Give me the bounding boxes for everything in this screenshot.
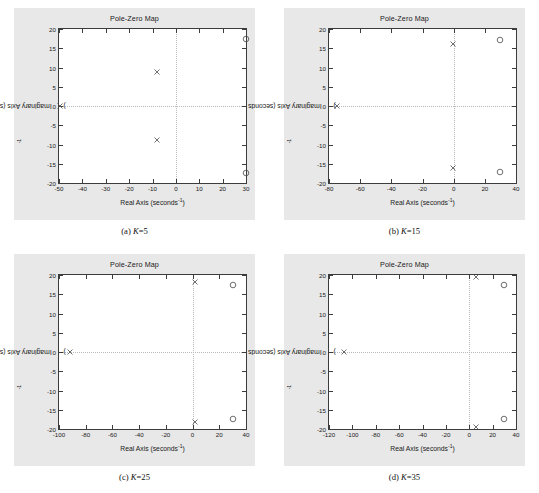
- y-axis-tick-right: [512, 410, 516, 411]
- zero-marker: [242, 169, 250, 177]
- x-axis-tick-label: 40: [513, 185, 520, 192]
- x-axis-tick-top: [246, 275, 247, 279]
- y-axis-tick: [59, 164, 63, 165]
- pole-marker: [192, 279, 199, 286]
- x-axis-tick-top: [399, 275, 400, 279]
- x-axis-tick-top: [360, 29, 361, 33]
- y-axis-tick-right: [512, 352, 516, 353]
- y-axis-tick: [59, 183, 63, 184]
- x-axis-tick-top: [176, 29, 177, 33]
- y-axis-tick: [329, 164, 333, 165]
- caption-prefix: (c): [119, 472, 131, 482]
- subfigure-caption: (c) K=25: [0, 472, 269, 482]
- y-axis-tick-right: [242, 352, 246, 353]
- y-axis-title-tail: ): [0, 103, 66, 110]
- zero-marker: [500, 415, 508, 423]
- y-axis-tick: [59, 145, 63, 146]
- x-axis-tick-label: 20: [216, 431, 223, 438]
- zero-marker: [242, 35, 250, 43]
- y-axis-tick-right: [512, 125, 516, 126]
- subfigure-caption: (b) K=15: [270, 226, 539, 236]
- y-axis-tick-right: [242, 410, 246, 411]
- x-axis-tick-top: [106, 29, 107, 33]
- x-axis-tick-label: -10: [148, 185, 157, 192]
- y-axis-tick: [59, 294, 63, 295]
- plot-axes: -100-80-60-40-200204020151050-5-10-15-20: [58, 274, 247, 430]
- plot-axes: -120-100-80-60-40-200204020151050-5-10-1…: [328, 274, 517, 430]
- x-axis-tick: [112, 425, 113, 429]
- y-axis-tick-right: [242, 333, 246, 334]
- figure-sheet: Pole-Zero Map -50-40-30-20-1001020302015…: [0, 0, 539, 493]
- x-axis-tick: [246, 179, 247, 183]
- x-axis-tick-label: -40: [135, 431, 144, 438]
- y-axis-tick: [59, 410, 63, 411]
- zero-line-vertical: [454, 29, 455, 183]
- y-axis-tick: [59, 87, 63, 88]
- x-axis-tick: [166, 425, 167, 429]
- x-axis-tick: [454, 179, 455, 183]
- y-axis-tick-right: [242, 183, 246, 184]
- plot-panel: Pole-Zero Map -100-80-60-40-200204020151…: [14, 254, 255, 466]
- y-axis-tick-right: [512, 371, 516, 372]
- y-axis-tick: [59, 333, 63, 334]
- plot-title: Pole-Zero Map: [284, 14, 525, 23]
- x-axis-tick-top: [246, 29, 247, 33]
- y-axis-tick-label: -10: [47, 387, 56, 394]
- y-axis-tick: [329, 48, 333, 49]
- subfigure-caption: (a) K=5: [0, 226, 269, 236]
- y-axis-tick-right: [242, 145, 246, 146]
- x-axis-tick-top: [129, 29, 130, 33]
- figure-panel-b: Pole-Zero Map -80-60-40-200204020151050-…: [270, 0, 539, 246]
- y-axis-tick: [329, 29, 333, 30]
- y-axis-tick-label: -15: [317, 406, 326, 413]
- y-axis-tick-label: -15: [47, 406, 56, 413]
- y-axis-tick-right: [242, 87, 246, 88]
- y-axis-tick-label: -20: [317, 426, 326, 433]
- y-axis-tick-label: 10: [319, 310, 326, 317]
- y-axis-tick: [59, 68, 63, 69]
- y-axis-tick-right: [242, 314, 246, 315]
- zero-marker: [229, 281, 237, 289]
- x-axis-tick-label: -40: [387, 185, 396, 192]
- x-axis-tick-label: -30: [101, 185, 110, 192]
- y-axis-tick-label: 15: [319, 45, 326, 52]
- x-axis-tick-label: -60: [108, 431, 117, 438]
- y-axis-tick: [59, 314, 63, 315]
- plot-panel: Pole-Zero Map -50-40-30-20-1001020302015…: [14, 8, 255, 220]
- x-axis-tick-label: -40: [78, 185, 87, 192]
- x-axis-tick-label: 0: [468, 431, 471, 438]
- y-axis-tick-label: 20: [49, 272, 56, 279]
- x-axis-tick: [360, 179, 361, 183]
- x-axis-tick: [219, 425, 220, 429]
- y-axis-tick-label: -15: [317, 160, 326, 167]
- y-axis-tick: [59, 29, 63, 30]
- y-axis-tick-label: -5: [50, 368, 56, 375]
- x-axis-tick-top: [454, 29, 455, 33]
- caption-value: =25: [136, 472, 149, 482]
- x-axis-tick: [399, 425, 400, 429]
- y-axis-tick: [329, 87, 333, 88]
- x-axis-tick-top: [199, 29, 200, 33]
- zero-marker: [500, 281, 508, 289]
- y-axis-tick-right: [512, 87, 516, 88]
- y-axis-tick-label: 10: [49, 64, 56, 71]
- x-axis-tick-top: [166, 275, 167, 279]
- x-axis-tick: [493, 425, 494, 429]
- y-axis-tick: [59, 391, 63, 392]
- y-axis-tick-right: [512, 391, 516, 392]
- x-axis-tick-top: [423, 29, 424, 33]
- y-axis-tick-label: -20: [47, 426, 56, 433]
- y-axis-title-exponent: -1: [16, 138, 22, 142]
- y-axis-title: Imaginary Axis (seconds-1): [16, 274, 28, 430]
- x-axis-tick-label: -20: [125, 185, 134, 192]
- x-axis-tick: [469, 425, 470, 429]
- x-axis-tick-label: 10: [196, 185, 203, 192]
- plot-panel: Pole-Zero Map -120-100-80-60-40-20020402…: [284, 254, 525, 466]
- y-axis-tick-label: -5: [50, 122, 56, 129]
- y-axis-tick: [59, 275, 63, 276]
- zero-line-vertical: [193, 275, 194, 429]
- y-axis-title: Imaginary Axis (seconds-1): [286, 274, 298, 430]
- y-axis-tick-label: 15: [319, 291, 326, 298]
- y-axis-tick-right: [512, 48, 516, 49]
- caption-value: =15: [407, 226, 420, 236]
